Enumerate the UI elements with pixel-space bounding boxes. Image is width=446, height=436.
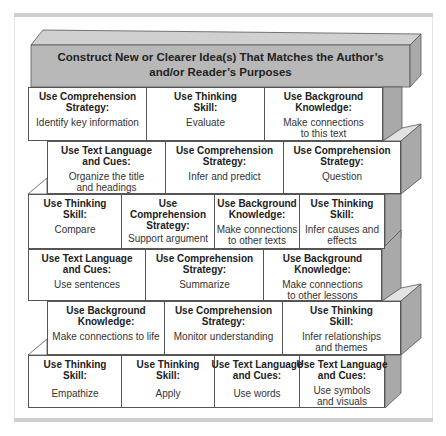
brick-heading: Use Thinking: [44, 198, 107, 209]
brick-heading: Strategy:: [202, 316, 245, 327]
brick-heading: Skill:: [63, 209, 87, 220]
brick-heading: Knowledge:: [294, 264, 351, 275]
brick-heading: Use Text Language: [61, 145, 152, 156]
brick-body: Compare: [54, 224, 95, 235]
brick-organize-title-headings: Use Text Language and Cues: Organize the…: [48, 142, 166, 193]
brick-empathize: Use Thinking Skill: Empathize: [29, 356, 122, 407]
brick-summarize: Use Comprehension Strategy: Summarize: [146, 250, 264, 300]
brick-heading: Use Background: [284, 91, 363, 102]
brick-heading: Skill:: [63, 370, 87, 381]
row5-left-bevel: [28, 339, 47, 355]
brick-body: Use symbols: [313, 385, 370, 396]
brick-use-words: Use Text Language and Cues: Use words: [215, 356, 300, 407]
brick-heading: Use: [159, 198, 177, 209]
brick-evaluate: Use Thinking Skill: Evaluate: [147, 88, 265, 140]
brick-connections-other-texts: Use Background Knowledge: Make connectio…: [215, 195, 300, 248]
brick-heading: Knowledge:: [229, 209, 286, 220]
brick-identify-key-information: Use Comprehension Strategy: Identify key…: [29, 88, 147, 140]
brick-heading: Use Thinking: [174, 91, 237, 102]
brick-heading: Use Comprehension: [293, 145, 390, 156]
brick-heading: Use Thinking: [310, 305, 373, 316]
brick-heading: Skill:: [194, 102, 218, 113]
brick-body: Summarize: [179, 279, 230, 290]
brick-row-5: Use Background Knowledge: Make connectio…: [47, 301, 401, 355]
brick-heading: Use Thinking: [44, 359, 107, 370]
brick-heading: Use Text Language: [212, 359, 303, 370]
title-line-2: and/or Reader’s Purposes: [31, 65, 410, 80]
row2-left-bevel: [28, 178, 47, 194]
brick-row-2: Use Text Language and Cues: Organize the…: [47, 141, 401, 194]
brick-row-4: Use Text Language and Cues: Use sentence…: [28, 249, 382, 301]
brick-body: to other texts: [228, 235, 286, 246]
brick-heading: Strategy:: [66, 102, 109, 113]
wall-title: Construct New or Clearer Idea(s) That Ma…: [31, 45, 410, 85]
brick-heading: Strategy:: [320, 156, 363, 167]
brick-body: effects: [327, 235, 356, 246]
brick-body: and themes: [315, 342, 367, 353]
brick-heading: Skill:: [330, 209, 354, 220]
brick-heading: Use Background: [217, 198, 296, 209]
brick-apply: Use Thinking Skill: Apply: [122, 356, 215, 407]
brick-heading: and Cues:: [63, 264, 111, 275]
brick-body: and headings: [76, 182, 136, 193]
brick-heading: Use Text Language: [42, 253, 133, 264]
brick-heading: and Cues:: [233, 370, 281, 381]
brick-heading: Use Comprehension: [176, 145, 273, 156]
brick-body: Make connections: [217, 224, 298, 235]
brick-heading: Skill:: [330, 316, 354, 327]
brick-body: Use sentences: [54, 279, 120, 290]
brick-support-argument: Use Comprehension Strategy: Support argu…: [122, 195, 215, 248]
brick-row-6: Use Thinking Skill: Empathize Use Thinki…: [28, 355, 385, 408]
brick-monitor-understanding: Use Comprehension Strategy: Monitor unde…: [165, 302, 283, 354]
brick-heading: Knowledge:: [78, 316, 135, 327]
brick-heading: and Cues:: [318, 370, 366, 381]
brick-body: Evaluate: [186, 117, 225, 128]
brick-body: Make connections to life: [52, 331, 159, 342]
brick-body: Organize the title: [69, 171, 145, 182]
brick-connections-other-lessons: Use Background Knowledge: Make connectio…: [264, 250, 381, 300]
brick-question: Use Comprehension Strategy: Question: [284, 142, 400, 193]
brick-body: Monitor understanding: [174, 331, 274, 342]
brick-infer-causes-effects: Use Thinking Skill: Infer causes and eff…: [300, 195, 384, 248]
brick-body: Infer relationships: [302, 331, 381, 342]
brick-row-1: Use Comprehension Strategy: Identify key…: [28, 87, 383, 141]
brick-heading: Use Background: [66, 305, 145, 316]
brick-body: Make connections: [283, 117, 364, 128]
brick-body: Support argument: [128, 233, 208, 244]
brick-heading: Comprehension: [130, 209, 206, 220]
brick-body: Question: [322, 171, 362, 182]
title-line-1: Construct New or Clearer Idea(s) That Ma…: [31, 50, 410, 65]
brick-heading: Use Comprehension: [156, 253, 253, 264]
brick-heading: Strategy:: [203, 156, 246, 167]
brick-heading: Use Comprehension: [175, 305, 272, 316]
brick-heading: Strategy:: [183, 264, 226, 275]
brick-body: Apply: [155, 388, 180, 399]
brick-body: Infer and predict: [188, 171, 260, 182]
brick-body: Make connections: [282, 279, 363, 290]
brick-connections-life: Use Background Knowledge: Make connectio…: [48, 302, 165, 354]
brick-heading: Use Background: [283, 253, 362, 264]
brick-use-symbols-visuals: Use Text Language and Cues: Use symbols …: [300, 356, 384, 407]
brick-heading: Knowledge:: [295, 102, 352, 113]
brick-heading: Skill:: [156, 370, 180, 381]
brick-heading: Use Comprehension: [39, 91, 136, 102]
brick-body: to other lessons: [287, 290, 358, 301]
brick-use-sentences: Use Text Language and Cues: Use sentence…: [29, 250, 146, 300]
brick-heading: Strategy:: [146, 220, 189, 231]
brick-infer-relationships-themes: Use Thinking Skill: Infer relationships …: [283, 302, 400, 354]
slab-top-face: [31, 30, 421, 45]
brick-body: Infer causes and: [305, 224, 379, 235]
brick-row-3: Use Thinking Skill: Compare Use Comprehe…: [28, 194, 385, 249]
brick-infer-predict: Use Comprehension Strategy: Infer and pr…: [166, 142, 284, 193]
brick-body: Identify key information: [36, 117, 139, 128]
brick-compare: Use Thinking Skill: Compare: [29, 195, 122, 248]
brick-body: Empathize: [51, 388, 98, 399]
brick-heading: Use Thinking: [137, 359, 200, 370]
brick-heading: Use Thinking: [311, 198, 374, 209]
brick-heading: and Cues:: [82, 156, 130, 167]
brick-body: and visuals: [317, 396, 367, 407]
brick-body: to this text: [301, 128, 347, 139]
brick-heading: Use Text Language: [297, 359, 388, 370]
brick-connections-this-text: Use Background Knowledge: Make connectio…: [265, 88, 382, 140]
brick-body: Use words: [233, 388, 280, 399]
